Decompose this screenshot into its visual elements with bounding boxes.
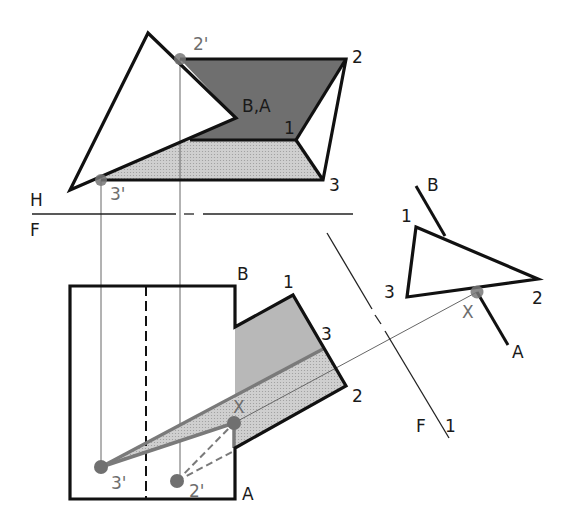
label-top-ba: B,A: [242, 96, 271, 116]
label-front-x: X: [233, 397, 245, 417]
label-aux-2: 2: [532, 288, 543, 308]
top-point-3prime: [95, 174, 107, 186]
label-top-1: 1: [284, 118, 295, 138]
label-aux-3: 3: [384, 282, 395, 302]
fold-line-hf: H F: [30, 190, 353, 240]
front-line-3prime-x: [101, 423, 234, 467]
aux-line-a: [477, 292, 508, 345]
top-point-2prime: [174, 53, 186, 65]
fold-f1-segment-1: [327, 233, 372, 309]
label-front-2prime: 2': [189, 481, 205, 501]
aux-point-x: [471, 286, 484, 299]
label-aux-b: B: [427, 175, 439, 195]
front-point-3prime: [94, 460, 108, 474]
auxiliary-view: B 1 3 2 X A: [384, 175, 543, 362]
front-point-2prime: [170, 474, 184, 488]
label-front-b: B: [237, 264, 249, 284]
label-aux-1: 1: [401, 206, 412, 226]
label-fold-h: H: [30, 190, 43, 210]
descriptive-geometry-drawing: 2' 2 B,A 1 3 3' H F B: [0, 0, 574, 526]
label-top-3prime: 3': [110, 184, 126, 204]
label-top-2prime: 2': [193, 34, 209, 54]
label-top-2: 2: [352, 47, 363, 67]
label-front-3: 3: [321, 324, 332, 344]
label-aux-x: X: [462, 302, 474, 322]
label-front-2: 2: [352, 386, 363, 406]
label-front-a: A: [242, 484, 254, 504]
aux-triangle: [407, 227, 538, 297]
label-fold-f1-1: 1: [445, 416, 456, 436]
label-aux-a: A: [512, 342, 524, 362]
label-front-1: 1: [283, 272, 294, 292]
label-fold-f1-f: F: [416, 416, 426, 436]
front-point-x: [227, 416, 241, 430]
fold-f1-segment-2: [375, 315, 381, 324]
label-top-3: 3: [329, 175, 340, 195]
front-dashed-2prime-edge: [177, 452, 232, 481]
label-front-3prime: 3': [111, 473, 127, 493]
label-fold-f: F: [30, 220, 40, 240]
